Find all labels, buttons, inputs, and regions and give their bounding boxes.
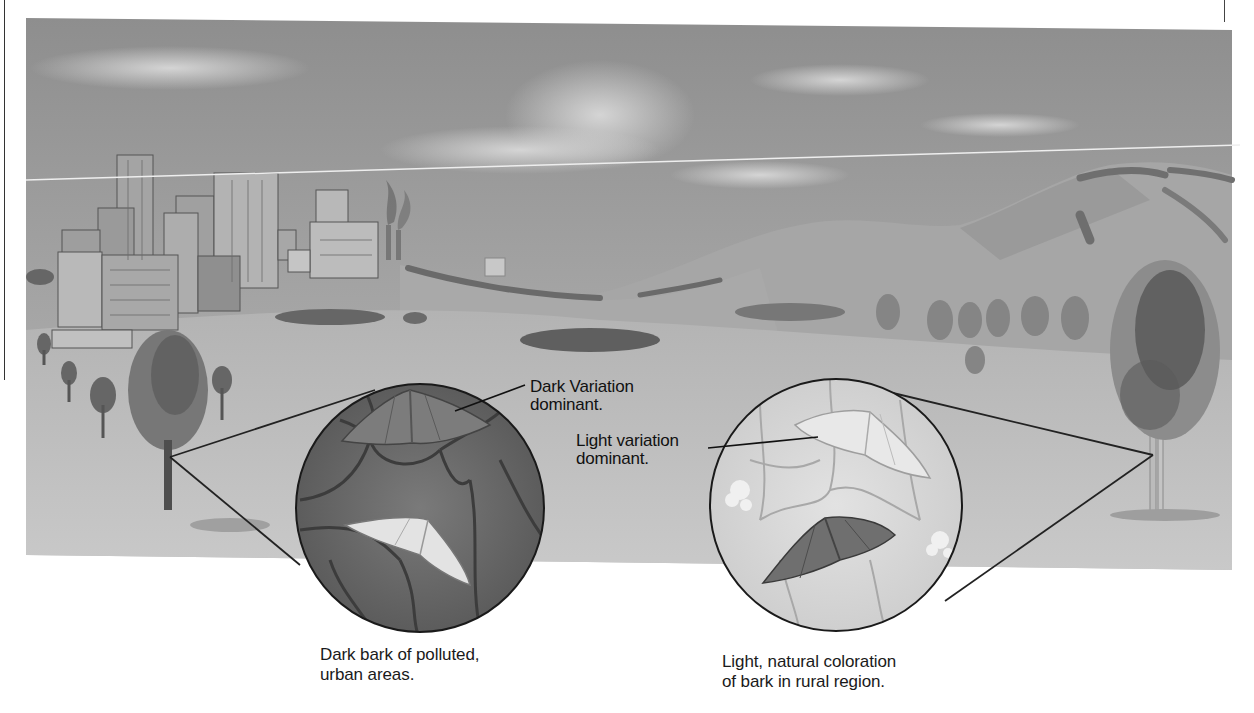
light-variation-label-line1: Light variation — [576, 432, 679, 450]
dark-bark-caption: Dark bark of polluted, urban areas. — [320, 645, 479, 685]
light-bark-caption: Light, natural coloration of bark in rur… — [722, 652, 896, 692]
dark-variation-label-line1: Dark Variation — [530, 378, 634, 396]
light-bark-caption-line2: of bark in rural region. — [722, 672, 896, 692]
landscape-illustration — [0, 0, 1254, 713]
light-bark-caption-line1: Light, natural coloration — [722, 652, 896, 672]
dark-bark-inset — [296, 380, 545, 640]
dark-bark-caption-line1: Dark bark of polluted, — [320, 645, 479, 665]
light-variation-label: Light variation dominant. — [576, 432, 679, 468]
dark-variation-label: Dark Variation dominant. — [530, 378, 634, 414]
dark-bark-caption-line2: urban areas. — [320, 665, 479, 685]
light-variation-label-line2: dominant. — [576, 450, 679, 468]
dark-variation-label-line2: dominant. — [530, 396, 634, 414]
painting — [26, 18, 1240, 570]
light-bark-inset — [710, 379, 962, 640]
